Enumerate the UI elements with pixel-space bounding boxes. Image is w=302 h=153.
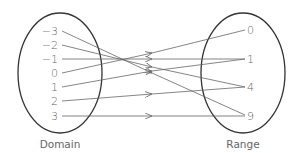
domain-ellipse: [18, 13, 102, 133]
range-value: 1: [247, 53, 254, 66]
arrow-1-to-1: [62, 71, 152, 87]
mapping-arrows: [62, 30, 245, 116]
arrow-2-to-4: [62, 94, 152, 101]
range-value: 9: [247, 110, 254, 123]
range-values: 0 1 4 9: [247, 24, 254, 123]
domain-caption: Domain: [40, 138, 81, 150]
domain-value: 1: [51, 81, 58, 94]
domain-value: 2: [51, 95, 58, 108]
domain-value: −3: [42, 25, 58, 38]
range-value: 0: [247, 24, 254, 37]
domain-values: −3 −2 −1 0 1 2 3: [42, 25, 58, 123]
domain-value: −1: [42, 53, 58, 66]
range-ellipse: [201, 13, 285, 133]
range-value: 4: [247, 81, 254, 94]
mapping-diagram: −3 −2 −1 0 1 2 3 0 1 4 9 Domain Range: [0, 0, 302, 153]
range-caption: Range: [226, 138, 259, 150]
domain-value: −2: [42, 39, 58, 52]
domain-value: 0: [51, 67, 58, 80]
domain-value: 3: [51, 110, 58, 123]
arrow-neg3-to-9: [62, 31, 152, 73]
